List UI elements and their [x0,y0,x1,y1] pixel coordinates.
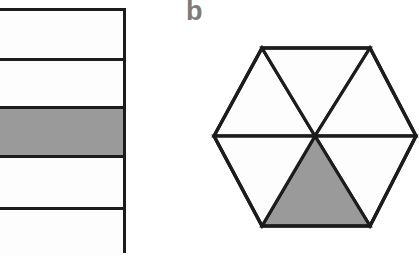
bar-divider [0,207,123,210]
bar-row [0,155,123,207]
hexagon-diagram [180,0,419,242]
bar-row [0,207,123,256]
bar-row [0,11,123,58]
panel-a-striped-bar [0,8,126,253]
bar-divider [0,155,123,158]
bar-divider [0,58,123,61]
bar-outline [0,8,126,253]
bar-row-shaded [0,106,123,155]
bar-row [0,58,123,106]
panel-b-hexagon: b [180,0,419,242]
bar-divider [0,106,123,109]
